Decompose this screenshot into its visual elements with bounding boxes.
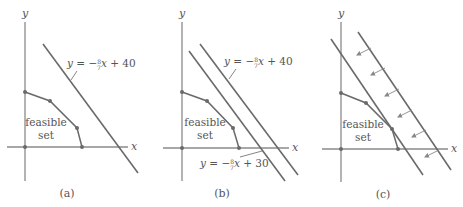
arrow-icon <box>385 89 399 96</box>
vertex-origin <box>180 146 184 150</box>
leader-line <box>71 71 77 80</box>
x-axis-label: x <box>131 140 138 153</box>
panel-b: y x feasible set y = −87x + 40 y = −87x … <box>163 7 299 200</box>
x-axis-label: x <box>451 142 458 155</box>
arrow-icon <box>398 110 412 117</box>
caption-b: (b) <box>214 187 230 200</box>
vertex <box>180 90 184 94</box>
region-label-line2: set <box>38 129 55 141</box>
vertex <box>75 126 79 130</box>
equation-label-40: y = −87x + 40 <box>223 55 293 69</box>
panel-c: y x feasible set (c) <box>322 7 458 201</box>
y-axis-label: y <box>337 7 345 20</box>
arrow-icon <box>357 48 371 55</box>
caption-a: (a) <box>59 187 74 200</box>
y-axis-label: y <box>21 7 29 20</box>
arrow-icon <box>371 68 385 75</box>
vertex <box>80 145 84 149</box>
vertex <box>364 101 368 105</box>
arrow-icon <box>425 150 439 157</box>
vertex <box>339 91 343 95</box>
vertex <box>205 99 209 103</box>
panel-a: y x feasible set y = −87x + 40 (a) <box>7 7 138 200</box>
vertex <box>23 90 27 94</box>
x-axis-label: x <box>292 141 299 154</box>
vertex <box>231 126 235 130</box>
region-label-line1: feasible <box>342 118 383 130</box>
y-axis-label: y <box>178 7 186 20</box>
leader-line-40 <box>229 69 236 79</box>
vertex-origin <box>339 147 343 151</box>
vertex <box>237 146 241 150</box>
equation-label-30: y = −87x + 30 <box>199 157 269 171</box>
region-label-line1: feasible <box>184 116 225 128</box>
region-label-line1: feasible <box>25 116 66 128</box>
region-label-line2: set <box>197 129 214 141</box>
arrow-icon <box>412 130 426 137</box>
figure: y x feasible set y = −87x + 40 (a) y x f… <box>0 0 463 207</box>
caption-c: (c) <box>376 188 391 201</box>
vertex-origin <box>23 145 27 149</box>
vertex <box>48 99 52 103</box>
equation-label-40: y = −87x + 40 <box>66 57 136 71</box>
vertex <box>396 147 400 151</box>
region-label-line2: set <box>355 131 372 143</box>
